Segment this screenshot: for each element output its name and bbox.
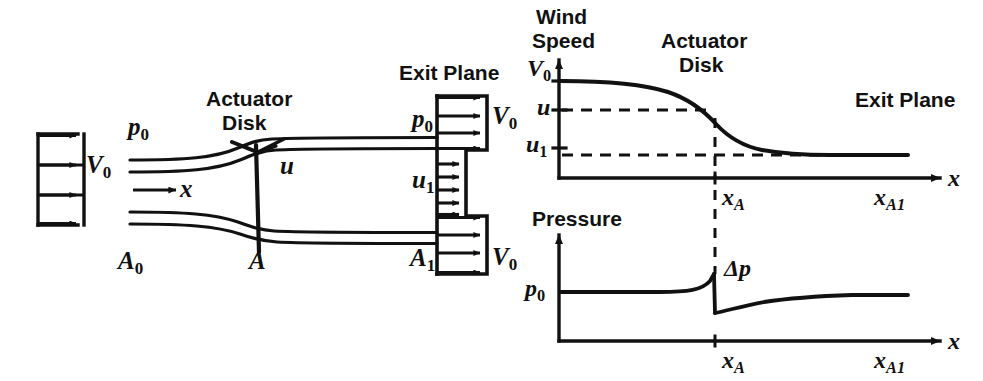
- pressure-plot-title: Pressure: [532, 208, 622, 229]
- exit-freestream-speed-top: V0: [492, 103, 517, 132]
- figure-canvas: V0 A0 p0 x Actuator Disk A u Exit Plane …: [0, 0, 983, 381]
- exit-plane-arrows-freestream-top: [438, 98, 480, 149]
- speed-annotation-disk: Disk: [679, 54, 723, 75]
- pressure-xtick-xA1: xA1: [874, 348, 905, 376]
- exit-wake-speed-label: u1: [412, 167, 434, 196]
- speed-annotation-actuator: Actuator: [661, 30, 747, 51]
- figure-vector-layer: [0, 0, 983, 381]
- speed-ytick-u: u: [537, 95, 550, 119]
- disk-speed-label: u: [280, 153, 294, 178]
- x-axis-direction-label: x: [180, 176, 193, 201]
- pressure-xtick-xA: xA: [722, 348, 745, 376]
- speed-ytick-V0: V0: [527, 56, 551, 84]
- speed-xaxis-label: x: [948, 166, 960, 190]
- speed-annotation-exit-plane: Exit Plane: [855, 89, 955, 110]
- pressure-xaxis-label: x: [948, 329, 960, 353]
- exit-area-label: A1: [410, 245, 435, 274]
- inlet-speed-label: V0: [86, 152, 111, 181]
- disk-area-label: A: [249, 248, 266, 273]
- upstream-pressure-label: p0: [128, 114, 149, 143]
- speed-xtick-xA: xA: [722, 185, 745, 213]
- exit-plane-arrows-wake: [438, 164, 459, 215]
- speed-ytick-u1: u1: [526, 132, 548, 160]
- speed-plot-title-line1: Wind: [536, 6, 587, 27]
- inlet-velocity-box: [38, 134, 84, 225]
- exit-plane-arrows-freestream-bottom: [438, 218, 480, 273]
- actuator-label-diagram: Actuator: [206, 88, 292, 109]
- exit-plane-profile-outline: [437, 96, 487, 274]
- inlet-area-label: A0: [118, 248, 143, 277]
- exit-pressure-label: p0: [412, 106, 433, 135]
- inlet-arrows: [38, 136, 84, 224]
- speed-dashed-guides: [562, 110, 830, 155]
- speed-plot-axes: [553, 60, 940, 183]
- stream-tube-lower: [130, 212, 437, 244]
- pressure-ytick-p0: p0: [525, 276, 545, 304]
- speed-plot-title-line2: Speed: [532, 30, 595, 51]
- exit-plane-title-diagram: Exit Plane: [399, 62, 499, 83]
- disk-label-diagram: Disk: [222, 112, 266, 133]
- pressure-jump-label: Δp: [724, 256, 751, 280]
- exit-freestream-speed-bottom: V0: [492, 244, 517, 273]
- speed-xtick-xA1: xA1: [874, 185, 905, 213]
